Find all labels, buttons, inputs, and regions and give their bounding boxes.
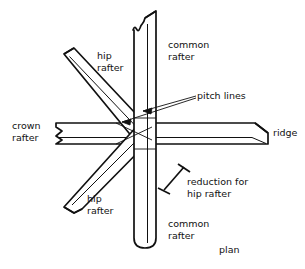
roof-framing-plan-figure: common rafter hip rafter pitch lines cro… [0,0,305,269]
label-pitch-lines: pitch lines [197,90,246,102]
label-crown-rafter: crown rafter [12,120,41,143]
label-hip-rafter-bottom: hip rafter [87,193,113,216]
crown-rafter-ridge-member [56,123,268,144]
label-ridge: ridge [273,127,297,139]
common-rafter-member [133,11,156,248]
label-reduction-for-hip-rafter: reduction for hip rafter [187,176,248,199]
reduction-dimension-line [164,167,184,190]
label-common-rafter-top: common rafter [168,39,209,62]
label-plan: plan [219,244,240,256]
framing-drawing-svg [0,0,305,269]
label-common-rafter-bottom: common rafter [168,218,209,241]
reduction-dimension-marker [158,164,190,194]
crown-ridge-outline [56,123,268,144]
label-hip-rafter-top: hip rafter [97,50,123,73]
common-rafter-outline [133,11,156,248]
